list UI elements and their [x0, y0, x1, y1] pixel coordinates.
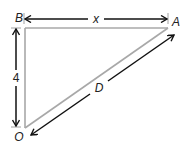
arrow-up-right-icon — [108, 35, 174, 81]
dimension-left: 4 — [11, 28, 21, 127]
vertex-label-a: A — [171, 15, 180, 29]
dimension-d: D — [31, 35, 174, 135]
triangle-diagram: x 4 D B A O — [0, 0, 185, 148]
dimension-left-label: 4 — [13, 71, 20, 85]
dimension-x-label: x — [92, 12, 100, 26]
arrow-down-left-icon — [31, 94, 90, 135]
triangle — [25, 28, 168, 128]
dimension-x: x — [24, 12, 168, 26]
vertex-label-o: O — [14, 130, 23, 144]
vertex-label-b: B — [15, 11, 23, 25]
side-oa-hypotenuse — [25, 28, 168, 128]
dimension-d-label: D — [95, 81, 104, 95]
